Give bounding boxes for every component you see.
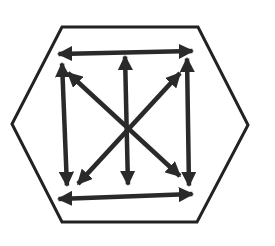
arrow-left-vertical — [62, 63, 67, 185]
arrow-bottom-horizontal — [58, 194, 192, 199]
arrow-group — [58, 51, 192, 199]
arrow-right-vertical — [187, 58, 189, 185]
hexagon-arrow-diagram — [0, 0, 275, 246]
diagram-canvas — [0, 0, 275, 246]
arrow-center-vertical — [125, 56, 128, 184]
arrow-top-horizontal — [58, 51, 192, 54]
